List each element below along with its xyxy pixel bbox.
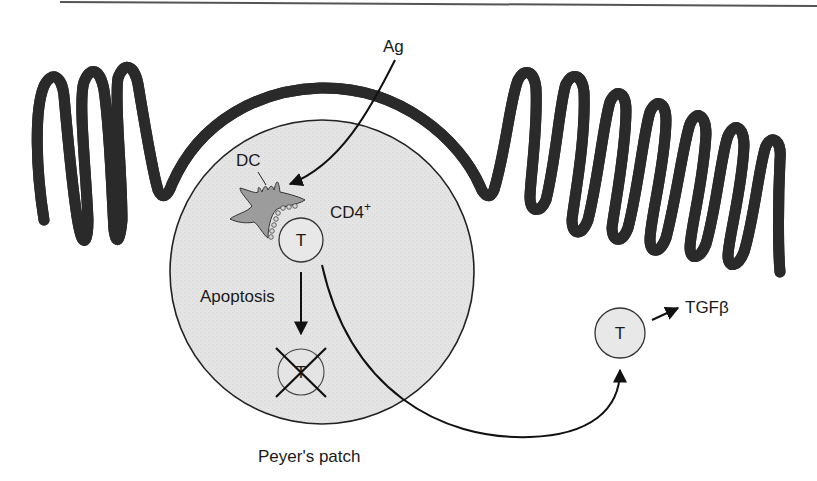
antigen-label: Ag xyxy=(383,37,404,56)
t-cell-letter: T xyxy=(296,231,306,250)
regulatory-t-cell: T xyxy=(595,308,645,358)
cd4-t-cell: T xyxy=(279,218,323,262)
apoptotic-t-cell: T xyxy=(276,348,326,397)
tgf-beta-label: TGFβ xyxy=(685,298,729,317)
top-rule-divider xyxy=(60,2,817,6)
peyers-patch-label: Peyer's patch xyxy=(258,447,360,466)
peyers-patch-diagram: Ag DC T CD4+ Apoptosis T T xyxy=(0,0,817,481)
apoptosis-label: Apoptosis xyxy=(200,287,275,306)
dendritic-cell-label: DC xyxy=(236,151,261,170)
tgf-beta-arrow xyxy=(652,308,678,320)
svg-text:T: T xyxy=(615,324,625,343)
